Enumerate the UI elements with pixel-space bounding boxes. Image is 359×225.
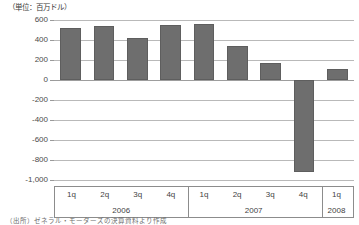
y-axis-tick-label: -600 xyxy=(32,136,48,144)
source-note: （出所）ゼネラル・モーターズの決算資料より作成 xyxy=(6,217,306,225)
chart-area: 6004002000-200-400-600-800-1,000 xyxy=(0,14,359,186)
bar xyxy=(260,63,281,81)
quarter-label: 1q xyxy=(320,187,353,203)
bar xyxy=(94,26,115,81)
y-axis-tick-label: -200 xyxy=(32,96,48,104)
quarter-label: 1q xyxy=(187,187,220,203)
quarter-row: 1q2q3q4q1q2q3q4q1q xyxy=(55,187,353,203)
y-axis-labels: 6004002000-200-400-600-800-1,000 xyxy=(0,14,54,186)
bar xyxy=(60,28,81,80)
quarter-label: 1q xyxy=(55,187,88,203)
year-label: 2007 xyxy=(187,203,319,218)
quarter-label: 3q xyxy=(121,187,154,203)
unit-caption: （単位：百万ドル） xyxy=(8,3,71,13)
x-axis: 1q2q3q4q1q2q3q4q1q 200620072008 xyxy=(54,186,354,218)
bar xyxy=(127,38,148,81)
bar xyxy=(194,24,215,80)
bar-series xyxy=(54,20,354,180)
bar xyxy=(227,46,248,80)
bar xyxy=(327,69,348,80)
gridline xyxy=(54,180,354,181)
quarter-label: 2q xyxy=(221,187,254,203)
y-axis-tick-label: -400 xyxy=(32,116,48,124)
y-axis-tick-label: -800 xyxy=(32,156,48,164)
quarter-label: 4q xyxy=(287,187,320,203)
y-axis-tick-label: 400 xyxy=(35,36,48,44)
year-label: 2008 xyxy=(320,203,353,218)
y-axis-tick-label: 0 xyxy=(44,76,48,84)
y-axis-tick-label: 600 xyxy=(35,16,48,24)
y-axis-tick-label: -1,000 xyxy=(25,176,48,184)
bar xyxy=(294,80,315,172)
quarter-label: 3q xyxy=(254,187,287,203)
year-group-divider xyxy=(188,187,189,218)
plot-area xyxy=(54,20,354,180)
year-group-divider xyxy=(322,187,323,218)
year-label: 2006 xyxy=(55,203,187,218)
quarter-label: 4q xyxy=(154,187,187,203)
bar xyxy=(160,25,181,81)
quarter-label: 2q xyxy=(88,187,121,203)
y-axis-tick-label: 200 xyxy=(35,56,48,64)
year-row: 200620072008 xyxy=(55,203,353,218)
